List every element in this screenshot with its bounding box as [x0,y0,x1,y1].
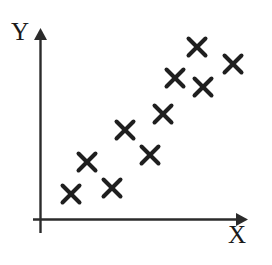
data-point-marker [117,122,134,139]
data-markers [63,39,242,203]
y-axis-label: Y [11,19,29,44]
data-point-marker [167,70,184,87]
data-point-marker [195,79,212,96]
data-point-marker [104,180,121,197]
data-point-marker [63,186,80,203]
data-point-marker [79,154,96,171]
data-point-marker [155,106,172,123]
data-point-marker [189,39,206,56]
y-axis-arrowhead [34,28,47,40]
x-axis-label: X [228,222,246,247]
y-axis [34,28,47,233]
scatter-plot-figure: Y X [0,0,272,265]
x-axis [33,213,248,226]
data-point-marker [225,56,242,73]
data-point-marker [142,147,159,164]
